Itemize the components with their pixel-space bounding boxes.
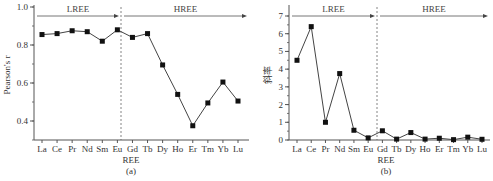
data-point-marker xyxy=(465,135,470,140)
region-label: HREE xyxy=(422,4,446,14)
x-axis-title: REE xyxy=(378,155,396,165)
data-point-marker xyxy=(337,71,342,76)
x-tick-label: Dy xyxy=(405,144,416,154)
x-tick-label: Sm xyxy=(96,144,108,154)
data-point-marker xyxy=(220,80,225,85)
data-point-marker xyxy=(145,31,150,36)
data-point-marker xyxy=(480,137,485,142)
figure: 0.40.60.81.0LaCePrNdSmEuGdTbDyHoErTmYbLu… xyxy=(0,0,493,181)
data-point-marker xyxy=(190,123,195,128)
x-tick-label: Tm xyxy=(447,144,460,154)
data-point-marker xyxy=(130,35,135,40)
arrow-head-icon xyxy=(114,14,119,18)
panel-label: (a) xyxy=(126,166,136,176)
data-series xyxy=(40,27,241,128)
y-axis-title: Pearson's r xyxy=(2,56,12,95)
data-point-marker xyxy=(115,27,120,32)
x-tick-label: Pr xyxy=(321,144,329,154)
x-tick-label: Ho xyxy=(172,144,183,154)
data-point-marker xyxy=(55,31,60,36)
data-point-marker xyxy=(85,29,90,34)
x-tick-label: Nd xyxy=(82,144,93,154)
x-tick-label: Lu xyxy=(233,144,243,154)
x-tick-label: Yb xyxy=(462,144,473,154)
data-point-marker xyxy=(175,92,180,97)
y-tick-label: 1 xyxy=(279,117,284,127)
arrow-head-icon xyxy=(483,14,488,18)
data-series xyxy=(295,24,485,142)
y-tick-label: 0.6 xyxy=(17,78,29,88)
y-tick-label: 2 xyxy=(279,100,284,110)
x-tick-label: Tb xyxy=(392,144,402,154)
chart-panel-a: 0.40.60.81.0LaCePrNdSmEuGdTbDyHoErTmYbLu… xyxy=(2,2,249,176)
data-point-marker xyxy=(309,24,314,29)
x-tick-label: La xyxy=(292,144,302,154)
x-tick-label: Sm xyxy=(348,144,360,154)
data-point-marker xyxy=(366,135,371,140)
data-point-marker xyxy=(423,137,428,142)
data-point-marker xyxy=(437,136,442,141)
arrow-head-icon xyxy=(370,14,375,18)
x-tick-label: Er xyxy=(435,144,444,154)
data-point-marker xyxy=(236,99,241,104)
x-tick-label: Dy xyxy=(157,144,168,154)
x-tick-label: Er xyxy=(189,144,198,154)
x-axis-title: REE xyxy=(123,155,141,165)
y-tick-label: 0 xyxy=(279,135,284,145)
x-tick-label: Ho xyxy=(420,144,431,154)
x-tick-label: Pr xyxy=(68,144,76,154)
data-point-marker xyxy=(394,137,399,142)
x-tick-label: Gd xyxy=(127,144,138,154)
chart-panel-b: 01234567LaCePrNdSmEuGdTbDyHoErTmYbLu LRE… xyxy=(262,4,490,176)
y-tick-label: 3 xyxy=(279,82,284,92)
arrow-head-icon xyxy=(242,14,247,18)
region-label: LREE xyxy=(67,4,90,14)
y-tick-label: 1.0 xyxy=(17,2,29,12)
data-point-marker xyxy=(160,62,165,67)
y-tick-label: 4 xyxy=(279,64,284,74)
region-label: HREE xyxy=(174,4,198,14)
x-tick-label: Yb xyxy=(217,144,228,154)
x-tick-label: Eu xyxy=(112,144,122,154)
series-line xyxy=(42,30,238,126)
y-tick-label: 7 xyxy=(279,11,284,21)
x-tick-label: La xyxy=(37,144,47,154)
x-tick-label: Lu xyxy=(477,144,487,154)
x-tick-label: Tm xyxy=(202,144,215,154)
data-point-marker xyxy=(351,128,356,133)
data-point-marker xyxy=(380,128,385,133)
x-tick-label: Ce xyxy=(306,144,316,154)
axes: 0.40.60.81.0LaCePrNdSmEuGdTbDyHoErTmYbLu xyxy=(17,2,249,154)
data-point-marker xyxy=(205,100,210,105)
y-tick-label: 0.4 xyxy=(17,116,29,126)
data-point-marker xyxy=(40,32,45,37)
x-tick-label: Nd xyxy=(334,144,345,154)
region-label: LREE xyxy=(322,4,345,14)
x-tick-label: Gd xyxy=(377,144,388,154)
data-point-marker xyxy=(451,137,456,142)
y-tick-label: 6 xyxy=(279,29,284,39)
x-tick-label: Tb xyxy=(143,144,153,154)
panel-label: (b) xyxy=(381,166,392,176)
data-point-marker xyxy=(323,120,328,125)
annotations: LREEHREE xyxy=(292,4,488,140)
y-axis-title: 斜率 xyxy=(262,66,273,84)
x-tick-label: Ce xyxy=(52,144,62,154)
y-tick-label: 5 xyxy=(279,46,284,56)
data-point-marker xyxy=(295,58,300,63)
x-tick-label: Eu xyxy=(363,144,373,154)
data-point-marker xyxy=(408,130,413,135)
y-tick-label: 0.8 xyxy=(17,40,29,50)
data-point-marker xyxy=(70,28,75,33)
data-point-marker xyxy=(100,39,105,44)
annotations: LREEHREE xyxy=(37,4,247,140)
